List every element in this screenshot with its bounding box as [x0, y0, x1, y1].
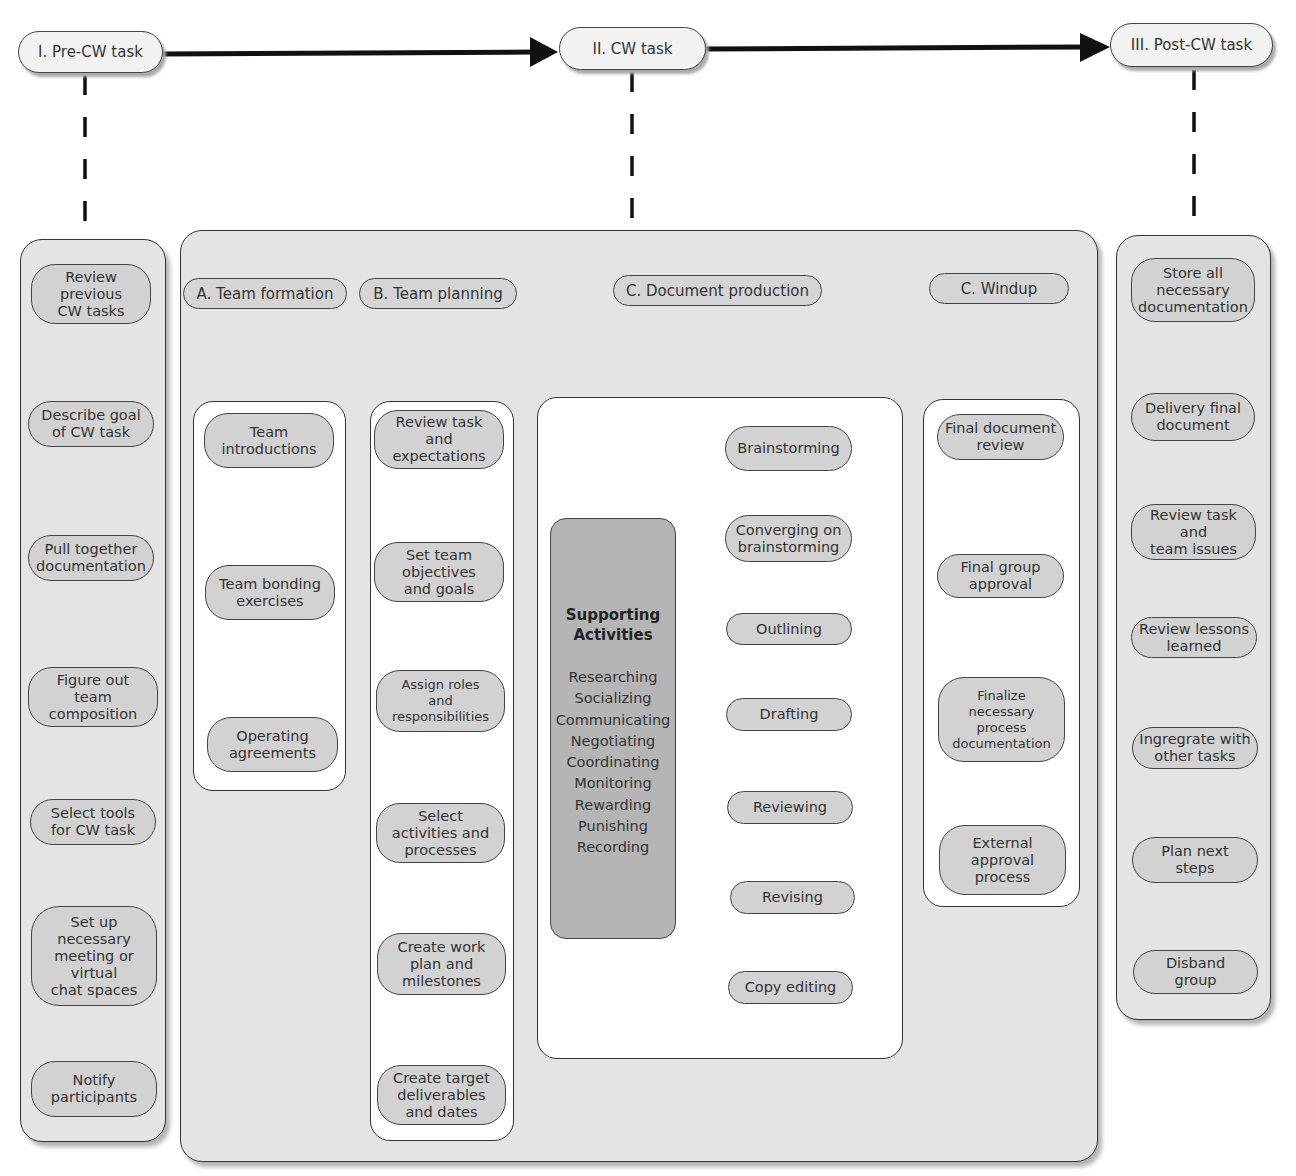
doc-production-step[interactable]: Revising — [730, 881, 855, 914]
phase-pre-cw-task[interactable]: I. Pre-CW task — [18, 31, 163, 73]
team-formation-step[interactable]: Operating agreements — [207, 717, 338, 772]
subphase-team-planning[interactable]: B. Team planning — [359, 278, 517, 309]
supporting-activities-box: Supporting Activities Researching Social… — [550, 518, 676, 939]
windup-step[interactable]: External approval process — [939, 825, 1066, 895]
post-cw-step[interactable]: Review task and team issues — [1131, 504, 1256, 560]
supporting-activity: Researching — [551, 667, 675, 688]
phase-post-cw-task[interactable]: III. Post-CW task — [1110, 23, 1273, 67]
supporting-activity: Communicating — [551, 710, 675, 731]
team-planning-step[interactable]: Assign roles and responsibilities — [376, 670, 505, 732]
phase-cw-task[interactable]: II. CW task — [559, 27, 706, 70]
post-cw-step[interactable]: Disband group — [1133, 950, 1258, 994]
doc-production-step[interactable]: Reviewing — [727, 791, 853, 824]
post-cw-step[interactable]: Store all necessary documentation — [1131, 258, 1255, 322]
windup-step[interactable]: Final document review — [937, 414, 1064, 460]
team-planning-step[interactable]: Create work plan and milestones — [377, 933, 506, 995]
doc-production-step[interactable]: Outlining — [726, 613, 852, 645]
arrowhead-icon — [530, 37, 558, 67]
supporting-activity: Monitoring — [551, 773, 675, 794]
pre-cw-step[interactable]: Pull together documentation — [28, 535, 154, 581]
post-cw-step[interactable]: Review lessons learned — [1131, 617, 1257, 658]
doc-production-step[interactable]: Brainstorming — [725, 426, 852, 471]
team-formation-step[interactable]: Team bonding exercises — [205, 565, 335, 620]
supporting-activities-list: Researching Socializing Communicating Ne… — [551, 667, 675, 859]
team-planning-box — [370, 401, 514, 1141]
subphase-document-production[interactable]: C. Document production — [613, 275, 822, 306]
supporting-activity: Socializing — [551, 688, 675, 709]
supporting-activity: Coordinating — [551, 752, 675, 773]
subphase-team-formation[interactable]: A. Team formation — [183, 278, 347, 309]
windup-step[interactable]: Finalize necessary process documentation — [938, 677, 1065, 762]
pre-cw-step[interactable]: Set up necessary meeting or virtual chat… — [31, 906, 157, 1006]
doc-production-step[interactable]: Copy editing — [728, 971, 853, 1004]
team-planning-step[interactable]: Set team objectives and goals — [374, 542, 504, 602]
doc-production-step[interactable]: Converging on brainstorming — [725, 515, 852, 562]
team-planning-step[interactable]: Review task and expectations — [374, 410, 504, 469]
pre-cw-step[interactable]: Notify participants — [31, 1061, 157, 1117]
post-cw-step[interactable]: Plan next steps — [1132, 837, 1258, 883]
post-cw-step[interactable]: Delivery final document — [1131, 393, 1255, 441]
team-formation-step[interactable]: Team introductions — [204, 413, 334, 468]
supporting-activity: Negotiating — [551, 731, 675, 752]
arrowhead-icon — [1080, 33, 1110, 62]
windup-step[interactable]: Final group approval — [937, 554, 1064, 598]
team-planning-step[interactable]: Create target deliverables and dates — [377, 1065, 506, 1125]
pre-cw-step[interactable]: Select tools for CW task — [30, 799, 156, 845]
pre-cw-step[interactable]: Describe goal of CW task — [28, 401, 154, 447]
phase-dashed-connectors — [85, 70, 1194, 240]
supporting-activity: Recording — [551, 837, 675, 858]
pre-cw-step[interactable]: Figure out team composition — [28, 667, 158, 727]
pre-cw-step[interactable]: Review previous CW tasks — [31, 264, 151, 324]
supporting-activity: Rewarding — [551, 795, 675, 816]
subphase-windup[interactable]: C. Windup — [929, 273, 1069, 304]
supporting-activities-title: Supporting Activities — [551, 605, 675, 645]
supporting-activity: Punishing — [551, 816, 675, 837]
doc-production-step[interactable]: Drafting — [726, 698, 852, 731]
post-cw-step[interactable]: Ingregrate with other tasks — [1132, 727, 1258, 769]
team-planning-step[interactable]: Select activities and processes — [376, 803, 505, 863]
